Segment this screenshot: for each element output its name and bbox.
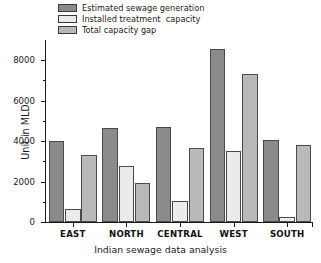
y-axis-minor-tick xyxy=(43,202,45,203)
y-axis-tick-label: 4000 xyxy=(13,137,35,146)
y-axis-tick xyxy=(41,101,45,102)
y-axis-title-container: Unit in MLD xyxy=(0,40,14,223)
x-axis-tick xyxy=(126,223,127,227)
bar xyxy=(172,201,188,222)
bar xyxy=(189,148,205,222)
bar-chart: Estimated sewage generationInstalled tre… xyxy=(0,0,321,263)
y-axis-line xyxy=(45,40,46,223)
legend-item[interactable]: Estimated sewage generation xyxy=(58,3,258,14)
y-axis-minor-tick xyxy=(43,80,45,81)
legend-item-label: Total capacity gap xyxy=(82,26,156,35)
x-axis-category-label: NORTH xyxy=(109,230,144,239)
x-axis-category-label: SOUTH xyxy=(270,230,305,239)
y-axis-minor-tick xyxy=(43,161,45,162)
bar xyxy=(226,151,242,222)
x-axis-end-tick xyxy=(312,223,313,227)
x-axis-category-label: EAST xyxy=(60,230,85,239)
bar xyxy=(156,127,172,222)
legend-item-label: Installed treatment capacity xyxy=(82,15,200,24)
y-axis-tick xyxy=(41,182,45,183)
legend-swatch-icon xyxy=(58,15,77,23)
bar xyxy=(210,49,226,222)
bar xyxy=(242,74,258,222)
chart-legend: Estimated sewage generationInstalled tre… xyxy=(58,3,258,36)
legend-swatch-icon xyxy=(58,4,77,12)
y-axis-title: Unit in MLD xyxy=(20,104,31,159)
x-axis-category-label: CENTRAL xyxy=(157,230,202,239)
x-axis-tick xyxy=(287,223,288,227)
bar xyxy=(263,140,279,223)
x-axis-tick xyxy=(73,223,74,227)
bar xyxy=(119,166,135,222)
y-axis-tick xyxy=(41,222,45,223)
legend-swatch-icon xyxy=(58,26,77,34)
bar xyxy=(49,141,65,222)
bar xyxy=(279,217,295,222)
y-axis-tick-label: 6000 xyxy=(13,96,35,105)
y-axis-tick xyxy=(41,60,45,61)
x-axis-tick xyxy=(180,223,181,227)
bar xyxy=(135,183,151,222)
legend-item-label: Estimated sewage generation xyxy=(82,4,204,13)
y-axis-tick xyxy=(41,141,45,142)
y-axis-tick-label: 0 xyxy=(30,218,35,227)
bar xyxy=(81,155,97,222)
y-axis-tick-label: 2000 xyxy=(13,177,35,186)
bar xyxy=(65,209,81,222)
x-axis-tick xyxy=(234,223,235,227)
legend-item[interactable]: Total capacity gap xyxy=(58,25,258,36)
bar xyxy=(102,128,118,222)
legend-item[interactable]: Installed treatment capacity xyxy=(58,14,258,25)
x-axis-line xyxy=(45,222,313,223)
y-axis-tick-label: 8000 xyxy=(13,56,35,65)
plot-area: 02000400060008000 EASTNORTHCENTRALWESTSO… xyxy=(45,40,313,223)
x-axis-category-label: WEST xyxy=(219,230,247,239)
bar xyxy=(296,145,312,222)
x-axis-title: Indian sewage data analysis xyxy=(0,244,321,255)
y-axis-minor-tick xyxy=(43,121,45,122)
